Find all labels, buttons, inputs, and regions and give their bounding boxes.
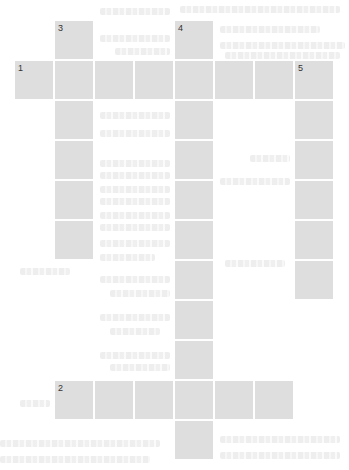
crossword-cell-r2-c1[interactable] — [55, 101, 93, 139]
crossword-cell-r6-c4[interactable] — [175, 261, 213, 299]
crossword-cell-r4-c1[interactable] — [55, 181, 93, 219]
crossword-cell-r9-c4[interactable] — [175, 381, 213, 419]
crossword-cell-r1-c6[interactable] — [255, 61, 293, 99]
crossword-cell-r3-c4[interactable] — [175, 141, 213, 179]
crossword-cell-r4-c4[interactable] — [175, 181, 213, 219]
crossword-cell-r0-c4[interactable]: 4 — [175, 21, 213, 59]
crossword-cell-r1-c7[interactable]: 5 — [295, 61, 333, 99]
crossword-cell-r3-c1[interactable] — [55, 141, 93, 179]
clue-number-3: 3 — [58, 23, 63, 33]
crossword-cell-r1-c2[interactable] — [95, 61, 133, 99]
crossword-cell-r1-c0[interactable]: 1 — [15, 61, 53, 99]
crossword-cell-r1-c3[interactable] — [135, 61, 173, 99]
clue-number-4: 4 — [178, 23, 183, 33]
crossword-cell-r6-c7[interactable] — [295, 261, 333, 299]
crossword-cell-r2-c7[interactable] — [295, 101, 333, 139]
clue-number-5: 5 — [298, 63, 303, 73]
crossword-cell-r1-c5[interactable] — [215, 61, 253, 99]
crossword-cell-r9-c6[interactable] — [255, 381, 293, 419]
crossword-cell-r2-c4[interactable] — [175, 101, 213, 139]
crossword-cell-r0-c1[interactable]: 3 — [55, 21, 93, 59]
crossword-cell-r5-c7[interactable] — [295, 221, 333, 259]
crossword-cell-r3-c7[interactable] — [295, 141, 333, 179]
crossword-cell-r4-c7[interactable] — [295, 181, 333, 219]
crossword-cell-r9-c3[interactable] — [135, 381, 173, 419]
clue-number-1: 1 — [18, 63, 23, 73]
crossword-cell-r1-c4[interactable] — [175, 61, 213, 99]
crossword-cell-r9-c5[interactable] — [215, 381, 253, 419]
crossword-grid: 15234 — [0, 0, 349, 470]
crossword-cell-r10-c4[interactable] — [175, 421, 213, 459]
crossword-cell-r1-c1[interactable] — [55, 61, 93, 99]
crossword-cell-r7-c4[interactable] — [175, 301, 213, 339]
clue-number-2: 2 — [58, 383, 63, 393]
crossword-cell-r9-c2[interactable] — [95, 381, 133, 419]
crossword-cell-r5-c4[interactable] — [175, 221, 213, 259]
crossword-cell-r8-c4[interactable] — [175, 341, 213, 379]
crossword-cell-r5-c1[interactable] — [55, 221, 93, 259]
crossword-cell-r9-c1[interactable]: 2 — [55, 381, 93, 419]
